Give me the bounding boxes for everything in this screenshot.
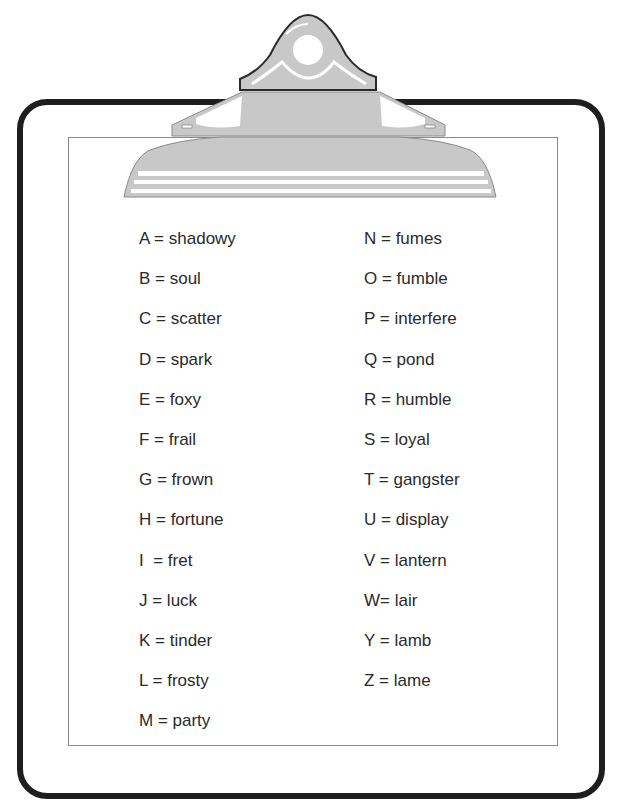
key-entry-a: A = shadowy [139,226,236,266]
key-entry-s: S = loyal [364,427,460,467]
key-entry-v: V = lantern [364,548,460,588]
key-entry-k: K = tinder [139,628,236,668]
key-entry-f: F = frail [139,427,236,467]
key-entry-j: J = luck [139,588,236,628]
key-entry-m: M = party [139,708,236,748]
key-entry-w: W= lair [364,588,460,628]
key-entry-n: N = fumes [364,226,460,266]
key-entry-i: I = fret [139,548,236,588]
key-entry-q: Q = pond [364,347,460,387]
binder-clip-icon [0,0,622,210]
key-entry-b: B = soul [139,266,236,306]
key-entry-u: U = display [364,507,460,547]
key-entry-e: E = foxy [139,387,236,427]
key-entry-r: R = humble [364,387,460,427]
key-entry-t: T = gangster [364,467,460,507]
key-entry-g: G = frown [139,467,236,507]
key-entry-z: Z = lame [364,668,460,708]
key-entry-y: Y = lamb [364,628,460,668]
key-column-right: N = fumes O = fumble P = interfere Q = p… [364,226,460,708]
key-entry-h: H = fortune [139,507,236,547]
key-entry-o: O = fumble [364,266,460,306]
key-entry-l: L = frosty [139,668,236,708]
key-entry-c: C = scatter [139,306,236,346]
key-entry-p: P = interfere [364,306,460,346]
key-column-left: A = shadowy B = soul C = scatter D = spa… [139,226,236,748]
key-entry-d: D = spark [139,347,236,387]
